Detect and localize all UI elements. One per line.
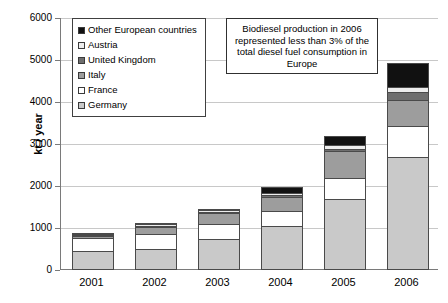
bar-segment-united-kingdom: [387, 92, 429, 100]
legend-swatch-icon: [78, 87, 85, 94]
bar-segment-france: [324, 178, 366, 199]
legend-item: Germany: [78, 98, 200, 112]
legend: Other European countriesAustriaUnited Ki…: [72, 18, 206, 117]
legend-item-label: France: [88, 85, 118, 95]
y-axis-tick-label: 2000: [4, 181, 52, 191]
bar-2005: [324, 136, 366, 270]
bar-segment-germany: [387, 157, 429, 270]
x-axis-tick-label: 2006: [377, 276, 437, 288]
x-axis-tick-label: 2004: [251, 276, 311, 288]
bar-segment-other-european-countries: [324, 136, 366, 145]
legend-swatch-icon: [78, 42, 85, 49]
legend-item-label: Germany: [88, 100, 127, 110]
bar-segment-france: [135, 234, 177, 249]
bar-segment-germany: [72, 251, 114, 270]
bar-2001: [72, 233, 114, 270]
y-axis-tick-label: 4000: [4, 97, 52, 107]
legend-item: United Kingdom: [78, 53, 200, 67]
y-axis-tick-label: 6000: [4, 13, 52, 23]
bar-2004: [261, 187, 303, 270]
y-axis-title: kt / year: [32, 74, 44, 194]
x-axis-tick-label: 2001: [62, 276, 122, 288]
bar-segment-france: [198, 224, 240, 239]
y-axis-tick-label: 3000: [4, 139, 52, 149]
y-axis-tick-label: 5000: [4, 55, 52, 65]
bar-segment-italy: [135, 227, 177, 235]
legend-swatch-icon: [78, 102, 85, 109]
legend-item: Italy: [78, 68, 200, 82]
legend-swatch-icon: [78, 72, 85, 79]
bar-segment-germany: [324, 199, 366, 270]
bar-segment-italy: [261, 197, 303, 211]
x-axis-tick-label: 2003: [188, 276, 248, 288]
legend-item: Other European countries: [78, 23, 200, 37]
bar-segment-france: [261, 211, 303, 226]
bar-segment-italy: [324, 151, 366, 178]
legend-swatch-icon: [78, 27, 85, 34]
x-axis-tick-label: 2002: [125, 276, 185, 288]
bar-2002: [135, 223, 177, 270]
bar-2003: [198, 209, 240, 270]
legend-item-label: Other European countries: [88, 25, 197, 35]
bar-segment-other-european-countries: [387, 63, 429, 87]
y-axis-tick: [55, 270, 60, 271]
bar-segment-italy: [387, 100, 429, 125]
legend-swatch-icon: [78, 57, 85, 64]
biodiesel-production-chart: 0100020003000400050006000 kt / year 2001…: [0, 0, 448, 303]
bar-segment-germany: [261, 226, 303, 270]
bar-2006: [387, 63, 429, 270]
legend-item: France: [78, 83, 200, 97]
y-axis-tick-label: 1000: [4, 223, 52, 233]
y-axis-tick-label: 0: [4, 265, 52, 275]
legend-item-label: United Kingdom: [88, 55, 156, 65]
annotation-callout: Biodiesel production in 2006 represented…: [226, 18, 378, 74]
bar-segment-germany: [135, 249, 177, 270]
bar-segment-france: [72, 238, 114, 251]
bar-segment-germany: [198, 239, 240, 270]
bar-segment-italy: [198, 213, 240, 224]
bar-segment-france: [387, 126, 429, 157]
legend-item-label: Austria: [88, 40, 118, 50]
x-axis-tick-label: 2005: [314, 276, 374, 288]
legend-item: Austria: [78, 38, 200, 52]
legend-item-label: Italy: [88, 70, 105, 80]
